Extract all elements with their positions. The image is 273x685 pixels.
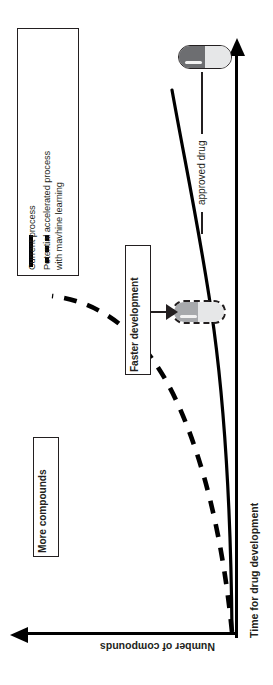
capsule-highlight: [185, 61, 202, 64]
approved-drug-leader-line-bottom: [201, 212, 203, 234]
approved-drug-label: approved drug: [196, 85, 207, 205]
legend-label-accelerated-line2: with mavhine learning: [54, 80, 66, 270]
legend-label-current-process: Current process: [27, 90, 39, 270]
capsule-light-half: [198, 302, 224, 322]
capsule-light-half: [205, 46, 231, 68]
x-axis-label: Time for drug development: [248, 238, 260, 638]
legend-label-accelerated-line1: Potential accelerated process: [42, 151, 52, 270]
x-axis-line: [235, 52, 238, 638]
y-axis-line: [24, 632, 237, 635]
capsule-pill-dashed-icon: [172, 300, 226, 324]
capsule-highlight: [180, 315, 197, 318]
arrow-right-icon-head: [166, 304, 178, 320]
figure-canvas: Time for drug development Number of comp…: [0, 0, 273, 685]
callout-more-compounds-label: More compounds: [37, 413, 48, 553]
capsule-pill-icon: [178, 45, 232, 69]
legend-label-accelerated-process: Potential accelerated process with mavhi…: [42, 80, 65, 270]
y-axis-arrowhead: [10, 627, 28, 643]
y-axis-label: Number of compounds: [100, 641, 215, 653]
capsule-dark-half: [179, 46, 207, 68]
callout-faster-development-label: Faster development: [129, 232, 140, 372]
